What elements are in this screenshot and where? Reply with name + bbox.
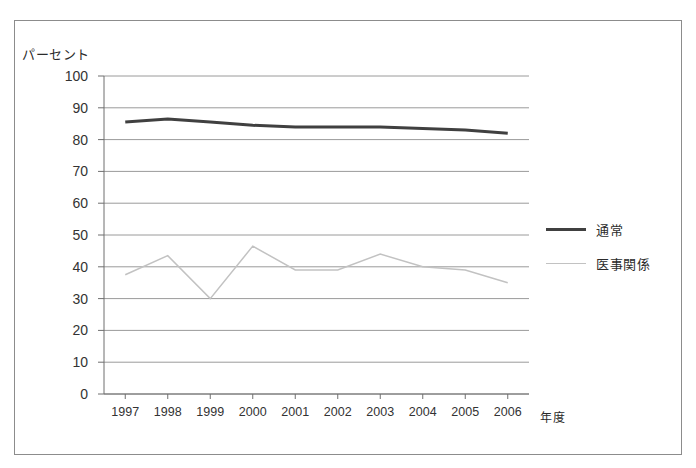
x-tick-label: 2001 <box>272 406 318 419</box>
y-tick-label: 80 <box>46 133 88 147</box>
legend-line-swatch-primary <box>546 228 586 231</box>
y-tick-label: 20 <box>46 323 88 337</box>
legend-line-swatch-secondary <box>546 263 586 264</box>
y-tick-label: 50 <box>46 228 88 242</box>
chart-figure: パーセント 年度 1009080706050403020100 19971998… <box>0 0 696 468</box>
legend-label-primary: 通常 <box>596 220 623 239</box>
x-tick-label: 2005 <box>442 406 488 419</box>
y-tick-marks <box>98 76 104 394</box>
data-series-group <box>125 119 508 299</box>
legend-label-secondary: 医事関係 <box>596 254 650 273</box>
y-tick-label: 30 <box>46 292 88 306</box>
legend-item-secondary: 医事関係 <box>546 246 676 280</box>
y-tick-label: 0 <box>46 387 88 401</box>
x-tick-label: 1999 <box>187 406 233 419</box>
y-tick-label: 10 <box>46 355 88 369</box>
x-tick-label: 1998 <box>145 406 191 419</box>
y-tick-label: 90 <box>46 101 88 115</box>
x-tick-label: 1997 <box>102 406 148 419</box>
y-tick-label: 70 <box>46 164 88 178</box>
y-tick-label: 40 <box>46 260 88 274</box>
chart-legend: 通常 医事関係 <box>546 212 676 280</box>
y-tick-label: 60 <box>46 196 88 210</box>
x-tick-label: 2004 <box>400 406 446 419</box>
x-tick-marks <box>125 394 508 399</box>
x-tick-label: 2006 <box>485 406 531 419</box>
x-tick-label: 2000 <box>230 406 276 419</box>
series-line-primary <box>125 119 508 133</box>
gridlines <box>104 76 529 394</box>
x-tick-label: 2002 <box>315 406 361 419</box>
y-tick-label: 100 <box>46 69 88 83</box>
legend-item-primary: 通常 <box>546 212 676 246</box>
series-line-secondary <box>125 246 508 298</box>
x-tick-label: 2003 <box>357 406 403 419</box>
